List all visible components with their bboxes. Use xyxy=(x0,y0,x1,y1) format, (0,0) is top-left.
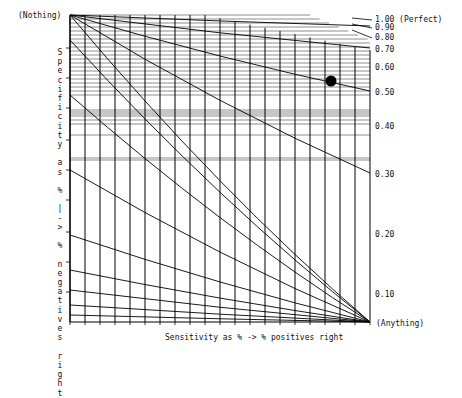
curve-label-070: 0.70 xyxy=(375,45,394,54)
curve-label-090: 0.90 xyxy=(375,23,394,32)
grid-line xyxy=(352,18,372,20)
y-axis-label: S p e c i f i c i t y a s % | - > % n e … xyxy=(56,48,64,398)
nothing-label: (Nothing) xyxy=(18,11,61,20)
x-axis-label: Sensitivity as % -> % positives right xyxy=(165,333,343,342)
curve-label-050: 0.50 xyxy=(375,88,394,97)
data-point-marker xyxy=(326,76,337,87)
anything-label: (Anything) xyxy=(376,319,424,328)
curve-label-030: 0.30 xyxy=(375,170,394,179)
grid-line xyxy=(352,30,372,38)
curve-label-010: 0.10 xyxy=(375,290,394,299)
curve-label-060: 0.60 xyxy=(375,63,394,72)
curve-label-040: 0.40 xyxy=(375,122,394,131)
curve-label-080: 0.80 xyxy=(375,33,394,42)
curve-label-020: 0.20 xyxy=(375,230,394,239)
